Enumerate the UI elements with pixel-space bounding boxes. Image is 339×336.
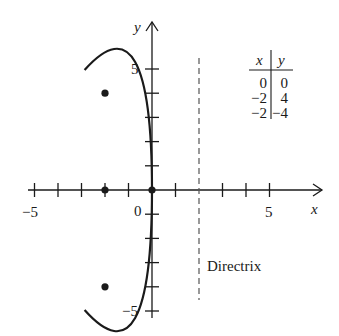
table-header-y: y	[276, 52, 285, 68]
table-cell-y: 0	[281, 75, 289, 91]
y-tick-label-neg5: −5	[122, 303, 138, 319]
value-table: x y 0 0 −2 4 −2 −4	[249, 50, 293, 121]
table-cell-y: 4	[281, 90, 289, 106]
x-axis-label: x	[310, 201, 318, 217]
table-cell-x: 0	[260, 75, 268, 91]
point-vertex	[148, 186, 155, 193]
x-tick-label-neg5: −5	[22, 204, 38, 220]
table-cell-x: −2	[251, 105, 267, 121]
x-tick-label-0: 0	[134, 203, 142, 219]
point-focus	[101, 186, 108, 193]
parabola-diagram: y x 5 −5 −5 0 5 Directrix x y 0 0 −2 4 −…	[0, 0, 339, 336]
y-axis-label: y	[132, 19, 141, 35]
point-lower	[101, 283, 108, 290]
table-cell-x: −2	[251, 90, 267, 106]
y-tick-label-5: 5	[131, 61, 139, 77]
directrix-label: Directrix	[207, 258, 262, 274]
x-tick-label-5: 5	[265, 204, 273, 220]
table-cell-y: −4	[272, 105, 288, 121]
table-header-x: x	[255, 52, 263, 68]
point-upper	[101, 90, 108, 97]
